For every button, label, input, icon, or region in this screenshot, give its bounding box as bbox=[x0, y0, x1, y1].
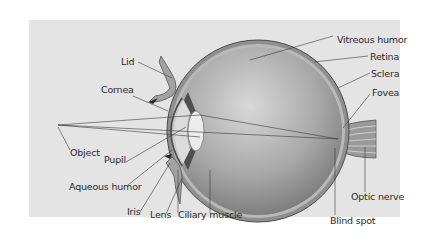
label-optic-nerve: Optic nerve bbox=[351, 192, 404, 202]
label-sclera: Sclera bbox=[371, 69, 399, 79]
label-vitreous-humor: Vitreous humor bbox=[337, 35, 407, 45]
label-lens: Lens bbox=[150, 210, 171, 220]
label-blind-spot: Blind spot bbox=[330, 216, 375, 226]
label-lid: Lid bbox=[121, 57, 134, 67]
label-aqueous-humor: Aqueous humor bbox=[69, 182, 141, 192]
label-cornea: Cornea bbox=[101, 85, 134, 95]
label-retina: Retina bbox=[370, 52, 399, 62]
label-pupil: Pupil bbox=[104, 155, 126, 165]
label-iris: Iris bbox=[127, 207, 141, 217]
label-fovea: Fovea bbox=[372, 88, 399, 98]
label-ciliary-muscle: Ciliary muscle bbox=[178, 210, 242, 220]
lens-shape bbox=[188, 111, 204, 151]
label-object: Object bbox=[70, 148, 100, 158]
upper-lid-shape bbox=[149, 56, 176, 102]
